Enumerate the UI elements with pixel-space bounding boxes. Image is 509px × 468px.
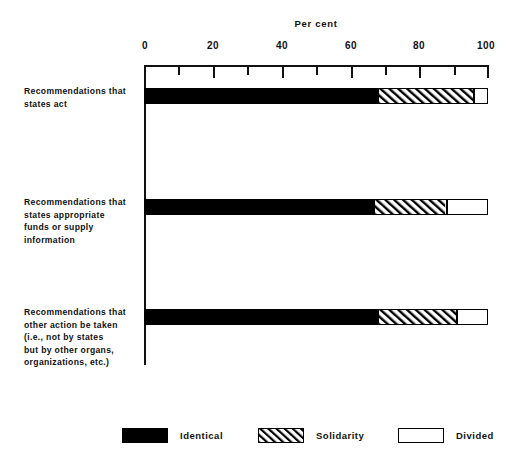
x-axis-tick-30 <box>247 65 249 75</box>
x-axis-tick-70 <box>385 65 387 75</box>
category-label-2-line-2: (i.e., not by states <box>24 331 142 344</box>
category-label-0: Recommendations that states act <box>24 85 142 110</box>
category-label-0-line-1: states act <box>24 98 142 111</box>
x-axis-tick-10 <box>178 65 180 75</box>
legend-item-identical: Identical <box>122 425 223 445</box>
legend-label-solidarity: Solidarity <box>316 430 364 441</box>
category-label-1-line-2: funds or supply <box>24 221 142 234</box>
legend-label-divided: Divided <box>456 430 494 441</box>
bar-row-0 <box>144 88 488 104</box>
legend-item-solidarity: Solidarity <box>258 425 364 445</box>
x-axis-tick-50 <box>316 65 318 75</box>
category-label-0-line-0: Recommendations that <box>24 85 142 98</box>
bar-segment-divided <box>474 88 488 104</box>
bar-segment-divided <box>447 199 488 215</box>
category-label-2-line-0: Recommendations that <box>24 306 142 319</box>
bar-segment-identical <box>144 199 374 215</box>
bar-segment-solidarity <box>378 88 474 104</box>
x-axis-tick-100 <box>487 65 489 78</box>
axis-title: Per cent <box>144 18 488 29</box>
bar-segment-identical <box>144 309 378 325</box>
category-label-1-line-3: information <box>24 234 142 247</box>
x-axis-tick-0 <box>144 65 146 78</box>
x-tick-label-20: 20 <box>207 40 219 51</box>
bar-segment-identical <box>144 88 378 104</box>
x-axis-tick-labels: 0 20 40 60 80 100 <box>0 40 509 56</box>
legend-swatch-solidarity-icon <box>258 428 304 443</box>
x-axis-tick-60 <box>351 65 353 78</box>
bar-segment-divided <box>457 309 488 325</box>
x-tick-label-80: 80 <box>413 40 425 51</box>
bar-row-1 <box>144 199 488 215</box>
category-label-2-line-3: but by other organs, <box>24 344 142 357</box>
legend-label-identical: Identical <box>180 430 223 441</box>
x-tick-label-60: 60 <box>345 40 357 51</box>
x-tick-label-100: 100 <box>477 40 495 51</box>
category-label-2: Recommendations that other action be tak… <box>24 306 142 369</box>
x-tick-label-0: 0 <box>142 40 148 51</box>
bar-segment-solidarity <box>378 309 457 325</box>
chart-legend: Identical Solidarity Divided <box>0 425 509 449</box>
legend-swatch-divided-icon <box>398 428 444 443</box>
category-label-2-line-1: other action be taken <box>24 319 142 332</box>
category-label-1: Recommendations that states appropriate … <box>24 196 142 246</box>
x-axis-tick-20 <box>213 65 215 78</box>
category-label-2-line-4: organizations, etc.) <box>24 356 142 369</box>
category-label-1-line-0: Recommendations that <box>24 196 142 209</box>
legend-swatch-identical-icon <box>122 428 168 443</box>
x-axis-tick-90 <box>454 65 456 75</box>
x-axis-tick-80 <box>419 65 421 78</box>
x-axis-tick-40 <box>282 65 284 78</box>
bar-segment-solidarity <box>374 199 446 215</box>
stacked-bar-chart: Per cent 0 20 40 60 80 100 Recommendatio… <box>0 0 509 468</box>
bar-row-2 <box>144 309 488 325</box>
category-label-1-line-1: states appropriate <box>24 209 142 222</box>
legend-item-divided: Divided <box>398 425 494 445</box>
x-tick-label-40: 40 <box>276 40 288 51</box>
